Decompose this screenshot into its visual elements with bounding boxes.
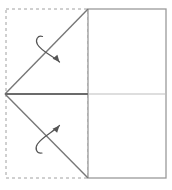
fold-diagram — [0, 0, 172, 190]
fold-diagram-container — [0, 0, 172, 190]
